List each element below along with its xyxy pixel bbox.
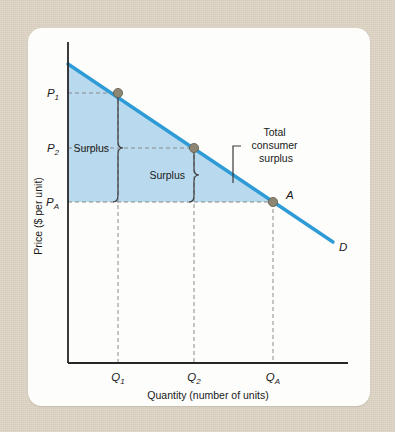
y-tick-p1: P1 [47,87,59,102]
surplus-label-q2: Surplus [149,169,185,181]
demand-curve-label: D [339,241,347,253]
x-tick-q2: Q2 [187,371,201,386]
x-tick-qa: QA [266,371,280,386]
figure-root: P1 P2 PA Q1 Q2 QA Quantity (number of un… [0,0,395,432]
y-axis-title: Price ($ per unit) [32,177,44,255]
consumer-surplus-chart: P1 P2 PA Q1 Q2 QA Quantity (number of un… [28,28,370,406]
y-tick-p2: P2 [47,142,60,157]
figure-card: P1 P2 PA Q1 Q2 QA Quantity (number of un… [28,28,370,406]
x-axis-title: Quantity (number of units) [147,389,268,401]
point-a [268,197,277,206]
point-q2 [189,143,198,152]
point-q1 [113,88,122,97]
total-consumer-surplus-label: Total consumer surplus [251,126,300,164]
y-tick-pa: PA [46,196,59,211]
x-tick-q1: Q1 [111,371,124,386]
surplus-label-q1: Surplus [73,142,109,154]
point-a-label: A [285,189,294,201]
